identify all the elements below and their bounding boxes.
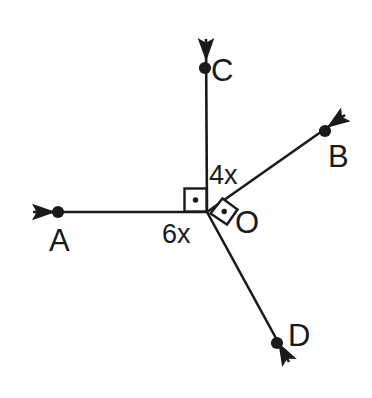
right-angle-marker-BOD bbox=[211, 199, 238, 225]
angle-label-4x: 4x bbox=[209, 162, 238, 189]
angle-label-6x: 6x bbox=[162, 221, 191, 248]
point-dot-D bbox=[271, 337, 283, 349]
point-dot-B bbox=[319, 125, 331, 137]
point-dot-C bbox=[199, 62, 211, 74]
point-label-B: B bbox=[328, 141, 349, 172]
point-label-D: D bbox=[288, 320, 310, 351]
right-angle-marker-AOC bbox=[185, 189, 207, 212]
point-dot-A bbox=[52, 206, 64, 218]
geometry-figure: A C B D O 4x 6x bbox=[0, 0, 372, 398]
point-label-C: C bbox=[211, 55, 233, 86]
geometry-canvas bbox=[0, 0, 372, 398]
point-label-A: A bbox=[49, 225, 70, 256]
point-label-O: O bbox=[235, 207, 259, 238]
